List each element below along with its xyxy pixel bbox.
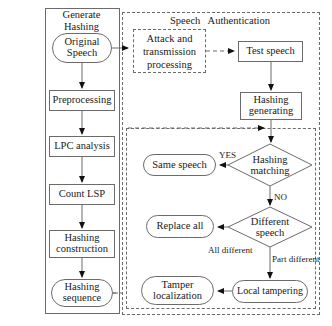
flowchart-connectors bbox=[0, 0, 332, 326]
flowchart-canvas: Generate Hashing Original Speech Preproc… bbox=[0, 0, 332, 326]
